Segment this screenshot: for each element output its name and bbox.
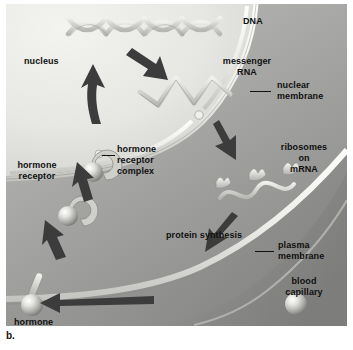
label-hormone-receptor-complex: hormone receptor complex (117, 144, 156, 177)
hormone-sphere (58, 206, 78, 226)
hormone-sphere (21, 294, 43, 316)
figure-caption: b. (6, 330, 15, 341)
leader-hormone-receptor-complex (102, 155, 115, 156)
label-ribosomes-on-mrna: ribosomes on mRNA (271, 142, 337, 175)
leader-nuclear-membrane (250, 91, 271, 92)
label-dna: DNA (243, 16, 263, 27)
label-hormone: hormone (14, 317, 53, 326)
label-blood-capillary: blood capillary (271, 276, 337, 298)
label-plasma-membrane: plasma membrane (278, 240, 324, 262)
label-messenger-rna: messenger RNA (212, 56, 282, 78)
label-hormone-receptor: hormone receptor (8, 160, 66, 182)
leader-plasma-membrane (255, 251, 274, 252)
figure-panel: nucleus DNA messenger RNA nuclear membra… (0, 0, 353, 350)
illustration-plate: nucleus DNA messenger RNA nuclear membra… (6, 4, 347, 326)
nuclear-pore (195, 111, 203, 119)
label-nucleus: nucleus (24, 56, 59, 67)
label-protein-synthesis: protein synthesis (166, 230, 242, 241)
label-nuclear-membrane: nuclear membrane (277, 80, 323, 102)
